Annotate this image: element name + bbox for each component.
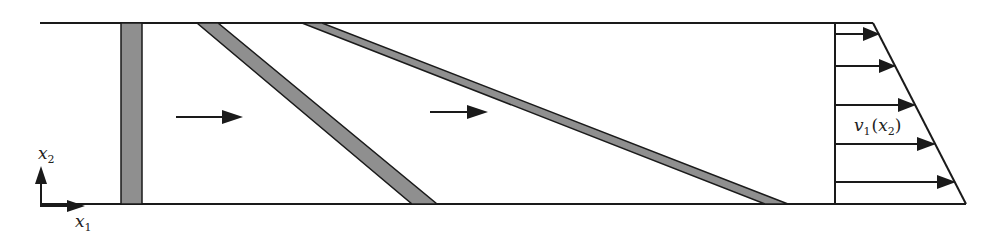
- shear-flow-diagram: v1(x2) x2 x1: [0, 0, 995, 236]
- x2-axis-arrowhead-icon: [35, 166, 47, 184]
- velocity-arrow: [836, 98, 916, 112]
- velocity-profile: v1(x2): [835, 23, 966, 204]
- band-initial: [121, 23, 142, 204]
- flow-arrow-2: [430, 105, 488, 119]
- velocity-arrow: [836, 27, 880, 41]
- velocity-arrow: [836, 59, 896, 73]
- arrowhead-icon: [863, 27, 880, 41]
- arrowhead-icon: [467, 105, 488, 119]
- profile-slope-line: [873, 23, 966, 204]
- x2-axis-label: x2: [38, 143, 55, 166]
- coordinate-axes: x2 x1: [35, 143, 92, 234]
- x1-axis-label: x1: [75, 211, 92, 234]
- band-sheared-2: [302, 23, 788, 204]
- arrowhead-icon: [222, 110, 243, 124]
- velocity-label: v1(x2): [854, 115, 901, 138]
- velocity-arrow: [836, 137, 936, 151]
- band-sheared-1: [197, 23, 437, 204]
- velocity-arrow: [836, 175, 956, 189]
- flow-arrow-1: [176, 110, 243, 124]
